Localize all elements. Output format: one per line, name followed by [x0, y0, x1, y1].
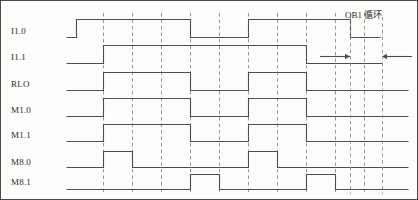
signal-label-RLO: RLO: [11, 79, 30, 89]
ob1-cycle-annotation: OB1 循环: [345, 8, 382, 21]
cycle-gridlines: [104, 13, 365, 194]
signal-label-M1-1: M1.1: [11, 130, 31, 140]
waveform-M1-0: [67, 99, 409, 117]
waveform-canvas: [0, 0, 418, 200]
signal-label-I1-1: I1.1: [11, 52, 26, 62]
waveform-I1-0: [67, 20, 381, 38]
timing-diagram-figure: I1.0I1.1RLOM1.0M1.1M8.0M8.1 OB1 循环: [0, 0, 418, 200]
waveform-RLO: [67, 73, 409, 91]
cycle-arrow-left-head: [345, 54, 350, 59]
waveform-M8-1: [67, 175, 409, 190]
signal-label-M8-0: M8.0: [11, 157, 31, 167]
signal-label-M1-0: M1.0: [11, 105, 31, 115]
waveform-M1-1: [67, 125, 409, 142]
signal-label-I1-0: I1.0: [11, 26, 26, 36]
signal-label-M8-1: M8.1: [11, 177, 31, 187]
signal-waveforms: [67, 20, 409, 190]
waveform-M8-0: [67, 152, 409, 168]
